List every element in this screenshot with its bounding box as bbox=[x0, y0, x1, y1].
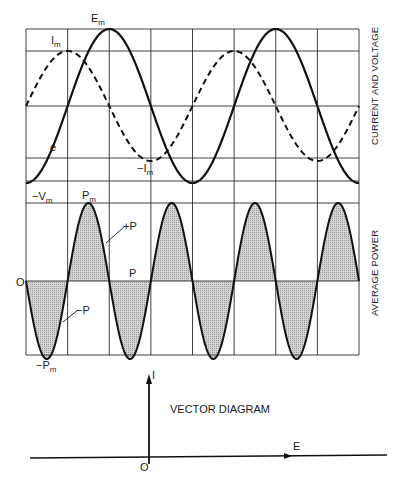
neg-pm-label: −Pm bbox=[36, 359, 57, 374]
pm-label: Pm bbox=[82, 189, 96, 204]
zero-label: O bbox=[16, 276, 25, 288]
vector-diagram: I E O VECTOR DIAGRAM bbox=[30, 369, 387, 473]
e-label: e bbox=[50, 141, 56, 153]
power-panel: −Vm Pm +P P O −P −Pm AVERAGE POWER bbox=[16, 181, 380, 374]
e-axis-line bbox=[30, 455, 387, 458]
e-vector-label: E bbox=[293, 440, 300, 452]
minus-p-label: −P bbox=[76, 304, 90, 316]
current-voltage-title: CURRENT AND VOLTAGE bbox=[369, 27, 380, 145]
p-avg-label: P bbox=[129, 267, 136, 279]
im-label: Im bbox=[51, 34, 61, 49]
em-label: Em bbox=[91, 12, 105, 27]
vector-diagram-title: VECTOR DIAGRAM bbox=[170, 403, 270, 415]
origin-label: O bbox=[140, 461, 149, 473]
e-arrowhead-icon bbox=[284, 453, 292, 459]
capacitive-circuit-figure: Em Im e −Im CURRENT AND VOLTAGE −Vm Pm +… bbox=[0, 0, 407, 487]
average-power-title: AVERAGE POWER bbox=[369, 230, 380, 316]
i-vector-label: I bbox=[152, 369, 155, 381]
current-voltage-panel: Em Im e −Im CURRENT AND VOLTAGE bbox=[26, 12, 380, 183]
plus-p-label: +P bbox=[123, 220, 137, 232]
minus-p-leader bbox=[63, 310, 78, 322]
